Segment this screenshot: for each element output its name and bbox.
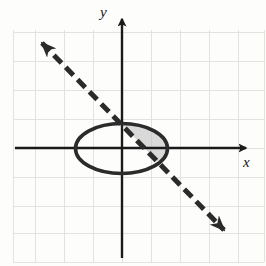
graph-canvas xyxy=(0,0,266,266)
graph-figure: y x xyxy=(0,0,266,266)
dashed-line xyxy=(42,43,224,230)
axes xyxy=(15,19,246,258)
y-axis-label: y xyxy=(100,5,107,20)
shaded-region xyxy=(33,0,266,266)
grid-lines xyxy=(13,30,264,262)
x-axis-label: x xyxy=(243,155,250,170)
